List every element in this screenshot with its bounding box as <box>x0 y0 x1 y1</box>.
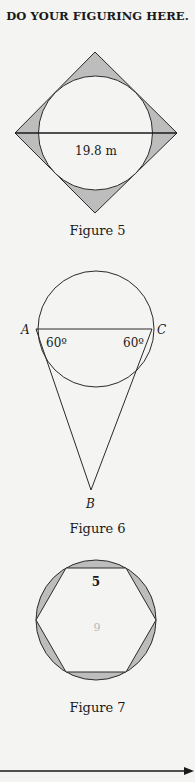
figure-7-diagram: 5 6 <box>0 530 195 690</box>
vertex-b-label: B <box>85 497 95 511</box>
figure-7-caption: Figure 7 <box>0 700 195 715</box>
diagonal-label: 19.8 m <box>75 144 118 158</box>
figure-5-caption: Figure 5 <box>0 223 195 238</box>
handwritten-note: 6 <box>94 620 101 633</box>
angle-c-label: 60º <box>123 336 144 350</box>
right-arrow-icon <box>0 765 195 777</box>
figure-6-diagram: A C B 60º 60º <box>0 260 195 520</box>
vertex-c-label: C <box>157 323 166 337</box>
side-label: 5 <box>92 575 100 589</box>
vertex-a-label: A <box>20 323 30 337</box>
figure-5-diagram: 19.8 m <box>0 0 195 230</box>
angle-a-label: 60º <box>46 336 67 350</box>
